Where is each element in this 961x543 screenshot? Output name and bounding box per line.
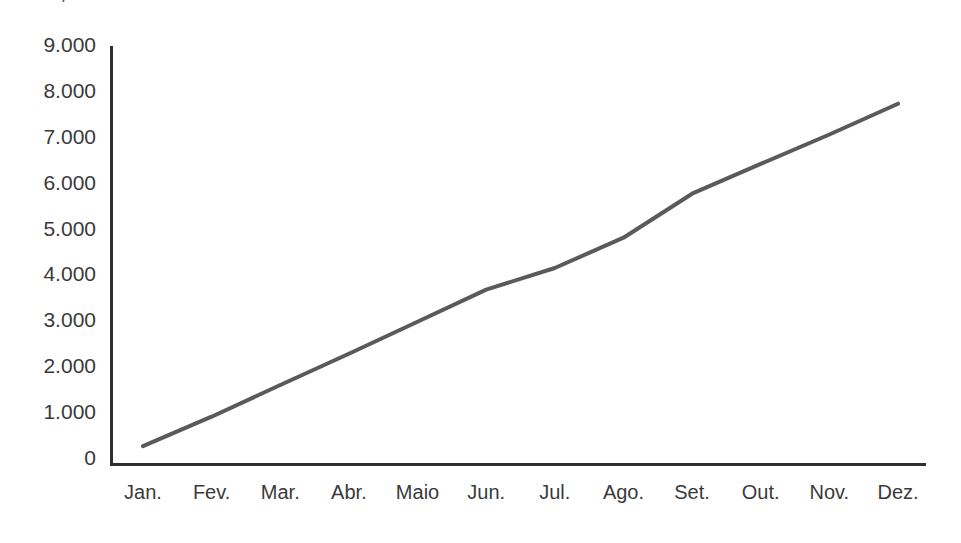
x-tick-label: Dez. (853, 482, 943, 502)
line-chart-figure: Comparativo 01.0002.0003.0004.0005.0006.… (0, 0, 961, 543)
y-tick-label: 6.000 (43, 172, 96, 193)
y-tick-label: 3.000 (43, 309, 96, 330)
axes-lines (110, 46, 926, 466)
plot-area (0, 0, 961, 543)
y-tick-label: 5.000 (43, 218, 96, 239)
y-tick-label: 9.000 (43, 34, 96, 55)
y-tick-label: 0 (84, 447, 96, 468)
y-tick-label: 1.000 (43, 401, 96, 422)
y-tick-label: 7.000 (43, 126, 96, 147)
data-series-line (143, 104, 898, 446)
y-tick-label: 8.000 (43, 80, 96, 101)
y-tick-label: 2.000 (43, 355, 96, 376)
y-tick-label: 4.000 (43, 263, 96, 284)
